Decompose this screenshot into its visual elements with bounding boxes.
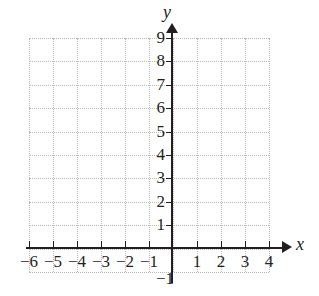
x-tick-mark [29, 241, 30, 248]
y-tick-mark [166, 38, 173, 39]
x-tick-label: 4 [254, 252, 284, 272]
y-tick-mark [166, 61, 173, 62]
x-tick-mark [269, 241, 270, 248]
y-tick-label: 7 [141, 76, 165, 94]
y-axis-label: y [163, 2, 171, 23]
x-tick-mark [221, 241, 222, 248]
y-tick-mark [166, 108, 173, 109]
x-axis-label: x [296, 234, 304, 255]
y-tick-label: 5 [141, 123, 165, 141]
grid-line-horizontal [29, 272, 269, 273]
x-tick-mark [125, 241, 126, 248]
y-tick-mark [166, 202, 173, 203]
y-tick-label: 6 [141, 99, 165, 117]
y-tick-mark [166, 155, 173, 156]
y-tick-mark [166, 225, 173, 226]
x-tick-mark [245, 241, 246, 248]
x-tick-mark [197, 241, 198, 248]
y-tick-mark [166, 132, 173, 133]
x-tick-mark [101, 241, 102, 248]
y-tick-label: 2 [141, 193, 165, 211]
x-tick-mark [77, 241, 78, 248]
y-axis-arrow-icon [166, 23, 178, 33]
y-tick-label: 9 [141, 29, 165, 47]
x-tick-mark [53, 241, 54, 248]
y-tick-label: −1 [153, 270, 177, 288]
y-tick-label: 8 [141, 52, 165, 70]
y-axis-line [171, 33, 173, 283]
coordinate-grid-figure: −6−5−4−3−2−11234−1123456789 y x [0, 0, 319, 296]
grid-line-vertical [269, 38, 270, 272]
y-tick-label: 1 [141, 216, 165, 234]
y-tick-label: 4 [141, 146, 165, 164]
x-tick-mark [149, 241, 150, 248]
y-tick-mark [166, 178, 173, 179]
y-tick-label: 3 [141, 169, 165, 187]
y-tick-mark [166, 85, 173, 86]
